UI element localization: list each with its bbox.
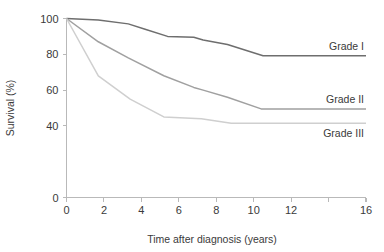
y-axis-ticks: [63, 19, 67, 198]
x-tick-label: 16: [360, 204, 372, 216]
y-tick-label: 60: [46, 84, 58, 96]
series-label-1: Grade I: [329, 40, 364, 52]
x-tick-label: 10: [248, 204, 260, 216]
series-line-3: [67, 19, 367, 124]
series-line-1: [67, 19, 367, 56]
series-line-2: [67, 19, 367, 109]
axes-group: [63, 19, 367, 202]
chart-container: 02468101216 0406080100 Grade IGrade IIGr…: [0, 0, 384, 252]
y-tick-label: 40: [46, 120, 58, 132]
axis-lines: [67, 19, 367, 198]
data-series-group: [67, 19, 367, 124]
x-tick-label: 4: [138, 204, 144, 216]
y-tick-label: 0: [52, 192, 58, 204]
y-tick-label: 100: [40, 13, 58, 25]
series-label-3: Grade III: [323, 127, 364, 139]
series-labels-group: Grade IGrade IIGrade III: [323, 40, 364, 139]
survival-curve-chart: 02468101216 0406080100 Grade IGrade IIGr…: [0, 0, 384, 252]
y-axis-title: Survival (%): [4, 80, 16, 137]
x-tick-label: 12: [285, 204, 297, 216]
x-tick-label: 8: [213, 204, 219, 216]
series-label-2: Grade II: [326, 93, 364, 105]
y-axis-tick-labels: 0406080100: [40, 13, 58, 204]
x-axis-title: Time after diagnosis (years): [147, 233, 277, 245]
x-tick-label: 2: [101, 204, 107, 216]
x-tick-label: 0: [63, 204, 69, 216]
x-tick-label: 6: [176, 204, 182, 216]
x-axis-ticks: [67, 198, 367, 202]
y-tick-label: 80: [46, 48, 58, 60]
x-axis-tick-labels: 02468101216: [63, 204, 372, 216]
